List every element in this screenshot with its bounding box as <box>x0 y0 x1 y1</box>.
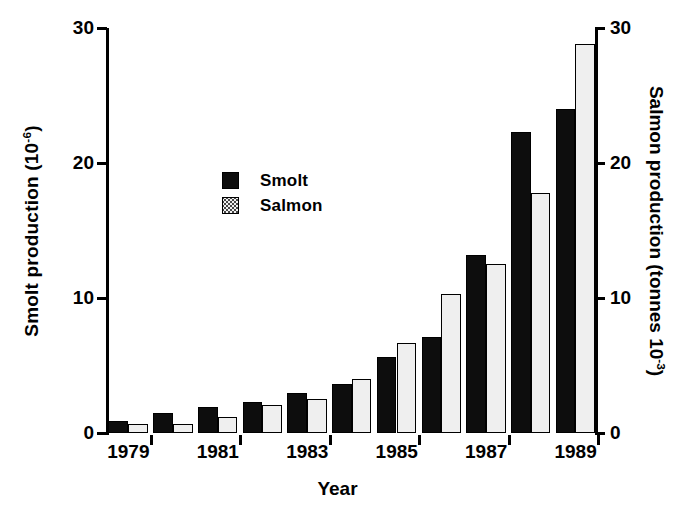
bar-salmon-1987 <box>486 264 506 433</box>
bar-salmon-1989 <box>575 44 595 433</box>
left-axis-title-close: ) <box>21 125 42 132</box>
bar-smolt-1983 <box>287 393 307 434</box>
bar-salmon-1980 <box>173 424 193 433</box>
bar-smolt-1986 <box>422 337 442 433</box>
x-tick-label-1983: 1983 <box>267 440 347 464</box>
bar-chart-figure: Smolt production (10-6) Salmon productio… <box>0 0 675 514</box>
bar-smolt-1987 <box>466 255 486 433</box>
bar-smolt-1979 <box>108 421 128 433</box>
left-axis-title: Smolt production (10-6) <box>15 11 49 451</box>
x-axis-title: Year <box>0 478 675 500</box>
legend-label-salmon: Salmon <box>260 196 323 216</box>
legend-label-smolt: Smolt <box>260 171 308 191</box>
bar-salmon-1985 <box>397 343 417 433</box>
x-tick-label-1985: 1985 <box>357 440 437 464</box>
bar-salmon-1988 <box>531 193 551 433</box>
right-tick-label-10: 10 <box>610 287 652 309</box>
bar-salmon-1984 <box>352 379 372 433</box>
right-axis-title-text: Salmon production (tonnes 10 <box>646 86 667 359</box>
right-axis-title-exponent: -3 <box>655 359 668 369</box>
legend: Smolt Salmon <box>222 170 323 220</box>
x-tick-label-1981: 1981 <box>178 440 258 464</box>
right-axis-title-close: ) <box>646 370 667 376</box>
stippled-square-icon <box>222 197 239 214</box>
bar-smolt-1988 <box>511 132 531 433</box>
x-tick-label-1987: 1987 <box>446 440 526 464</box>
bar-salmon-1979 <box>128 424 148 433</box>
x-tick-label-1979: 1979 <box>88 440 168 464</box>
right-tick-label-20: 20 <box>610 152 652 174</box>
bar-salmon-1986 <box>441 294 461 433</box>
x-tick-label-1989: 1989 <box>536 440 616 464</box>
legend-item-smolt: Smolt <box>222 170 323 191</box>
right-tick-label-0: 0 <box>610 422 652 444</box>
bar-smolt-1984 <box>332 384 352 433</box>
black-square-icon <box>222 172 239 189</box>
bar-smolt-1985 <box>377 357 397 433</box>
left-axis-title-text: Smolt production (10 <box>21 143 42 337</box>
left-tick-label-10: 10 <box>52 287 94 309</box>
right-axis-title: Salmon production (tonnes 10-3) <box>639 11 673 451</box>
bar-salmon-1982 <box>262 405 282 433</box>
left-tick-label-20: 20 <box>52 152 94 174</box>
legend-item-salmon: Salmon <box>222 195 323 216</box>
bar-smolt-1981 <box>198 407 218 433</box>
bar-salmon-1983 <box>307 399 327 433</box>
bar-smolt-1982 <box>243 402 263 433</box>
plot-area <box>106 28 598 433</box>
bar-smolt-1980 <box>153 413 173 433</box>
bar-salmon-1981 <box>218 417 238 433</box>
left-axis-title-exponent: -6 <box>20 132 33 143</box>
right-tick-label-30: 30 <box>610 17 652 39</box>
left-tick-label-30: 30 <box>52 17 94 39</box>
bar-smolt-1989 <box>556 109 576 433</box>
